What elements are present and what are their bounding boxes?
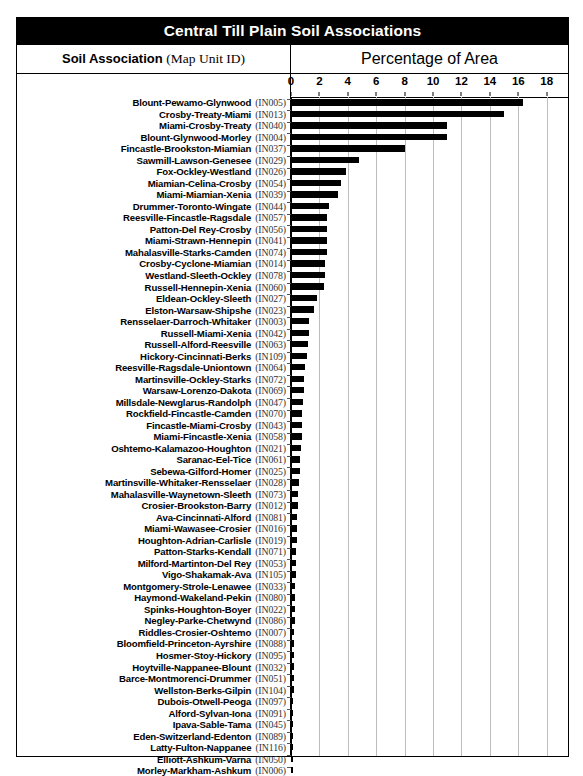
- bar-row: [291, 742, 568, 754]
- bar: [291, 226, 327, 232]
- map-unit-id: (IN073): [255, 489, 286, 500]
- bar: [291, 191, 338, 197]
- category-name: Milford-Martinton-Del Rey: [138, 558, 252, 569]
- bar-row: [291, 615, 568, 627]
- plot-area: Blount-Pewamo-Glynwood(IN005)Crosby-Trea…: [17, 74, 568, 756]
- bar: [291, 629, 294, 635]
- x-tick-label-8: 8: [401, 75, 407, 87]
- x-tick-mark-10: [433, 92, 434, 96]
- category-name: Saranac-Eel-Tice: [176, 454, 251, 465]
- map-unit-id: (IN006): [255, 765, 286, 776]
- category-name: Elliott-Ashkum-Varna: [157, 754, 251, 765]
- x-tick-mark-4: [347, 92, 348, 96]
- category-name: Dubois-Otwell-Peoga: [158, 696, 252, 707]
- bar-row: [291, 719, 568, 731]
- bar: [291, 468, 300, 474]
- category-name: Martinsville-Whitaker-Rensselaer: [105, 477, 251, 488]
- x-tick-mark-18: [546, 92, 547, 96]
- category-name: Hoytville-Nappanee-Blount: [132, 662, 251, 673]
- category-name: Drummer-Toronto-Wingate: [133, 201, 251, 212]
- category-label-row: Reesville-Ragsdale-Uniontown(IN064): [17, 362, 290, 374]
- map-unit-id: (IN097): [255, 696, 286, 707]
- category-name: Rockfield-Fincastle-Camden: [126, 408, 251, 419]
- category-label-row: Oshtemo-Kalamazoo-Houghton(IN021): [17, 442, 290, 454]
- category-label-row: Ava-Cincinnati-Alford(IN081): [17, 512, 290, 524]
- category-name: Sebewa-Gilford-Homer: [150, 466, 251, 477]
- category-label-row: Miami-Fincastle-Xenia(IN058): [17, 431, 290, 443]
- category-name: Hickory-Cincinnati-Berks: [140, 351, 251, 362]
- map-unit-id: (IN014): [255, 258, 286, 269]
- map-unit-id: (IN088): [255, 638, 286, 649]
- bar: [291, 606, 295, 612]
- category-name: Eldean-Ockley-Sleeth: [156, 293, 251, 304]
- x-tick-label-0: 0: [288, 75, 294, 87]
- bar: [291, 663, 294, 669]
- bar: [291, 502, 298, 508]
- bar-row: [291, 132, 568, 144]
- bar-row: [291, 638, 568, 650]
- bar: [291, 617, 295, 623]
- category-name: Bloomfield-Princeton-Ayrshire: [117, 638, 251, 649]
- map-unit-id: (IN027): [255, 293, 286, 304]
- x-tick-label-2: 2: [316, 75, 322, 87]
- bar-row: [291, 270, 568, 282]
- map-unit-id: (IN004): [255, 132, 286, 143]
- bar-row: [291, 489, 568, 501]
- category-label-row: Miami-Wawasee-Crosier(IN016): [17, 523, 290, 535]
- category-label-row: Martinsville-Whitaker-Rensselaer(IN028): [17, 477, 290, 489]
- column-header-percentage-of-area: Percentage of Area: [290, 45, 568, 73]
- bar-row: [291, 120, 568, 132]
- category-label-row: Russell-Miami-Xenia(IN042): [17, 327, 290, 339]
- bar: [291, 744, 293, 750]
- category-label-row: Bloomfield-Princeton-Ayrshire(IN088): [17, 638, 290, 650]
- bar: [291, 111, 504, 117]
- category-label-row: Houghton-Adrian-Carlisle(IN019): [17, 535, 290, 547]
- bar-row: [291, 442, 568, 454]
- map-unit-id: (IN005): [255, 97, 286, 108]
- map-unit-id: (IN089): [255, 731, 286, 742]
- bar-row: [291, 362, 568, 374]
- bar: [291, 445, 301, 451]
- map-unit-id: (IN116): [256, 742, 287, 753]
- bar-row: [291, 707, 568, 719]
- bar-row: [291, 650, 568, 662]
- category-name: Mahalasville-Starks-Camden: [125, 247, 251, 258]
- category-name: Alford-Sylvan-Iona: [169, 708, 252, 719]
- bar-row: [291, 373, 568, 385]
- bar: [291, 710, 293, 716]
- bar: [291, 767, 293, 773]
- bar: [291, 387, 304, 393]
- bar-row: [291, 143, 568, 155]
- bar-row: [291, 500, 568, 512]
- bar: [291, 640, 294, 646]
- x-tick-mark-6: [376, 92, 377, 96]
- bar-row: [291, 419, 568, 431]
- x-tick-mark-14: [489, 92, 490, 96]
- category-name: Wellston-Berks-Gilpin: [154, 685, 251, 696]
- bar-row: [291, 569, 568, 581]
- category-name: Patton-Del Rey-Crosby: [150, 224, 251, 235]
- map-unit-id: (IN061): [255, 454, 286, 465]
- map-unit-id: (IN081): [255, 512, 286, 523]
- category-name: Eden-Switzerland-Edenton: [133, 731, 251, 742]
- category-label-row: Montgomery-Strole-Lenawee(IN033): [17, 581, 290, 593]
- bar-row: [291, 166, 568, 178]
- category-name: Barce-Montmorenci-Drummer: [119, 673, 251, 684]
- category-label-row: Latty-Fulton-Nappanee(IN116): [17, 742, 290, 754]
- category-label-row: Saranac-Eel-Tice(IN061): [17, 454, 290, 466]
- x-tick-label-12: 12: [455, 75, 468, 87]
- map-unit-id: (IN037): [255, 143, 286, 154]
- bar-row: [291, 730, 568, 742]
- bar-row: [291, 258, 568, 270]
- category-name: Crosier-Brookston-Barry: [142, 500, 252, 511]
- map-unit-id: (IN047): [255, 397, 286, 408]
- category-label-row: Rockfield-Fincastle-Camden(IN070): [17, 408, 290, 420]
- bar: [291, 479, 299, 485]
- bar: [291, 99, 523, 105]
- bar: [291, 145, 405, 151]
- bar: [291, 594, 295, 600]
- category-label-row: Eden-Switzerland-Edenton(IN089): [17, 730, 290, 742]
- bar: [291, 399, 303, 405]
- category-name: Miamian-Celina-Crosby: [148, 178, 251, 189]
- bar: [291, 675, 294, 681]
